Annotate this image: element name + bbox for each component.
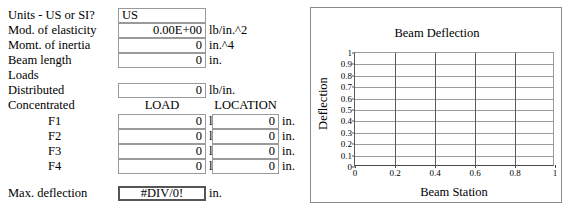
chart-xtick-label: 0.6	[469, 169, 480, 178]
chart-gridline-horizontal	[355, 156, 553, 157]
distributed-input[interactable]: 0	[118, 83, 206, 98]
form-row-modulus: Mod. of elasticity 0.00E+00 lb/in.^2	[0, 23, 300, 38]
f2-location-unit: in.	[282, 129, 295, 144]
chart-yaxis-label: Deflection	[316, 64, 331, 144]
f4-label: F4	[48, 159, 61, 174]
form-row-inertia: Momt. of inertia 0 in.^4	[0, 38, 300, 53]
f2-load-input[interactable]: 0	[118, 129, 206, 144]
inertia-input[interactable]: 0	[118, 38, 206, 53]
chart-ytick-mark	[352, 144, 355, 145]
f3-load-input[interactable]: 0	[118, 144, 206, 159]
chart-ytick-label: 0.7	[341, 83, 352, 92]
max-deflection-value: #DIV/0!	[118, 186, 206, 201]
chart-ytick-mark	[352, 110, 355, 111]
chart-ytick-mark	[352, 132, 355, 133]
force-row-f3: F3 0 lb 0 in.	[0, 144, 300, 159]
form-row-units: Units - US or SI? US	[0, 8, 300, 23]
chart-gridline-horizontal	[355, 110, 553, 111]
chart-gridline-horizontal	[355, 133, 553, 134]
chart-gridline-vertical	[475, 53, 476, 165]
max-deflection-row: Max. deflection #DIV/0! in.	[0, 186, 300, 201]
units-label: Units - US or SI?	[8, 8, 95, 23]
modulus-input[interactable]: 0.00E+00	[118, 23, 206, 38]
chart-ytick-mark	[352, 53, 355, 54]
f3-location-input[interactable]: 0	[212, 144, 279, 159]
units-input[interactable]: US	[118, 8, 206, 23]
chart-ytick-label: 0.1	[341, 151, 352, 160]
chart-ytick-mark	[352, 75, 355, 76]
chart-ytick-label: 0.5	[341, 106, 352, 115]
form-row-loads-header: Loads	[0, 68, 300, 83]
form-row-concentrated-header: Concentrated LOAD LOCATION	[0, 98, 300, 113]
chart-gridline-vertical	[435, 53, 436, 165]
chart-ytick-mark	[352, 64, 355, 65]
modulus-unit: lb/in.^2	[209, 23, 247, 38]
chart-xtick-label: 0.2	[389, 169, 400, 178]
chart-title: Beam Deflection	[311, 26, 563, 41]
f1-location-unit: in.	[282, 114, 295, 129]
chart-xtick-label: 0	[353, 169, 358, 178]
chart-ytick-label: 0.2	[341, 140, 352, 149]
loads-label: Loads	[8, 68, 39, 83]
chart-gridline-horizontal	[355, 144, 553, 145]
beam-input-form: Units - US or SI? US Mod. of elasticity …	[0, 0, 300, 216]
force-row-f1: F1 0 lb 0 in.	[0, 114, 300, 129]
chart-plot-area: 00.10.20.30.40.50.60.70.80.9100.20.40.60…	[354, 52, 554, 166]
f1-label: F1	[48, 114, 61, 129]
inertia-unit: in.^4	[209, 38, 234, 53]
beam-length-unit: in.	[209, 53, 222, 68]
f4-location-unit: in.	[282, 159, 295, 174]
chart-ytick-mark	[352, 98, 355, 99]
chart-xtick-label: 1	[553, 169, 558, 178]
form-row-beam-length: Beam length 0 in.	[0, 53, 300, 68]
chart-ytick-label: 0	[348, 163, 353, 172]
chart-ytick-label: 1	[348, 49, 353, 58]
chart-ytick-label: 0.6	[341, 94, 352, 103]
f3-label: F3	[48, 144, 61, 159]
chart-xtick-label: 0.8	[509, 169, 520, 178]
f1-load-input[interactable]: 0	[118, 114, 206, 129]
distributed-unit: lb/in.	[209, 83, 235, 98]
distributed-label: Distributed	[8, 83, 64, 98]
concentrated-label: Concentrated	[8, 98, 75, 113]
force-row-f2: F2 0 lb 0 in.	[0, 129, 300, 144]
beam-deflection-chart: Beam Deflection Deflection 00.10.20.30.4…	[310, 7, 562, 203]
f4-load-input[interactable]: 0	[118, 159, 206, 174]
f3-location-unit: in.	[282, 144, 295, 159]
chart-ytick-mark	[352, 121, 355, 122]
chart-xtick-label: 0.4	[429, 169, 440, 178]
chart-ytick-mark	[352, 87, 355, 88]
chart-gridline-vertical	[395, 53, 396, 165]
chart-gridline-horizontal	[355, 87, 553, 88]
max-deflection-label: Max. deflection	[8, 186, 87, 201]
form-row-distributed: Distributed 0 lb/in.	[0, 83, 300, 98]
chart-ytick-label: 0.4	[341, 117, 352, 126]
f2-label: F2	[48, 129, 61, 144]
beam-length-input[interactable]: 0	[118, 53, 206, 68]
location-column-header: LOCATION	[212, 98, 279, 113]
beam-length-label: Beam length	[8, 53, 72, 68]
f4-location-input[interactable]: 0	[212, 159, 279, 174]
chart-ytick-label: 0.3	[341, 128, 352, 137]
chart-ytick-label: 0.9	[341, 60, 352, 69]
chart-ytick-label: 0.8	[341, 71, 352, 80]
max-deflection-unit: in.	[209, 186, 222, 201]
load-column-header: LOAD	[118, 98, 206, 113]
chart-gridline-horizontal	[355, 121, 553, 122]
f1-location-input[interactable]: 0	[212, 114, 279, 129]
force-row-f4: F4 0 lb 0 in.	[0, 159, 300, 174]
chart-gridline-horizontal	[355, 99, 553, 100]
chart-xaxis-label: Beam Station	[354, 185, 554, 200]
inertia-label: Momt. of inertia	[8, 38, 90, 53]
f2-location-input[interactable]: 0	[212, 129, 279, 144]
chart-ytick-mark	[352, 155, 355, 156]
modulus-label: Mod. of elasticity	[8, 23, 97, 38]
chart-gridline-horizontal	[355, 76, 553, 77]
chart-gridline-horizontal	[355, 64, 553, 65]
chart-gridline-vertical	[515, 53, 516, 165]
